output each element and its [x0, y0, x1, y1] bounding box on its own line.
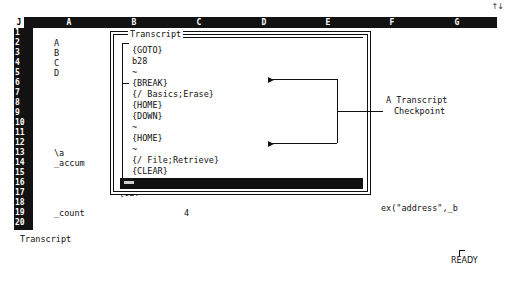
- transcript-window-inner: Transcript {GOTO}b28~{BREAK}{/ Basics;Er…: [113, 34, 368, 192]
- row-header-19[interactable]: 19: [15, 208, 33, 218]
- transcript-line[interactable]: ~: [132, 67, 137, 78]
- transcript-line[interactable]: ~: [132, 122, 137, 133]
- cell-A13[interactable]: \a: [54, 148, 64, 158]
- row-header-8[interactable]: 8: [15, 98, 33, 108]
- row-header-bar[interactable]: 1234567891011121314151617181920: [14, 28, 33, 230]
- transcript-line[interactable]: {HOME}: [132, 100, 163, 111]
- cell-A2[interactable]: A: [54, 38, 59, 48]
- transcript-line[interactable]: {/ Basics;Erase}: [132, 89, 214, 100]
- transcript-window[interactable]: Transcript {GOTO}b28~{BREAK}{/ Basics;Er…: [110, 31, 371, 195]
- transcript-line[interactable]: {DOWN}: [132, 111, 163, 122]
- scroll-lock-icon: ↑↓: [492, 2, 503, 11]
- annotation-line-callout: [337, 111, 383, 112]
- status-left-label: Transcript: [20, 234, 71, 244]
- row-header-3[interactable]: 3: [15, 48, 33, 58]
- row-header-20[interactable]: 20: [15, 218, 33, 228]
- annotation-line-upper-horizontal: [272, 79, 337, 80]
- row-header-11[interactable]: 11: [15, 128, 33, 138]
- transcript-line[interactable]: {GOTO}: [132, 45, 163, 56]
- transcript-line[interactable]: {HOME}: [132, 133, 163, 144]
- row-header-10[interactable]: 10: [15, 118, 33, 128]
- column-header-d[interactable]: D: [256, 17, 272, 28]
- row-header-7[interactable]: 7: [15, 88, 33, 98]
- column-header-bar[interactable]: J ABCDEFG: [14, 17, 497, 28]
- row-header-12[interactable]: 12: [15, 138, 33, 148]
- row-header-2[interactable]: 2: [15, 38, 33, 48]
- row-header-17[interactable]: 17: [15, 188, 33, 198]
- row-header-18[interactable]: 18: [15, 198, 33, 208]
- sheet-corner-label[interactable]: J: [14, 17, 24, 28]
- annotation-arrowhead-lower: [268, 141, 274, 147]
- transcript-title-rule: [176, 34, 363, 38]
- cell-C19[interactable]: 4: [184, 208, 189, 218]
- column-header-e[interactable]: E: [320, 17, 336, 28]
- transcript-cursor-line[interactable]: [120, 178, 363, 189]
- row-header-4[interactable]: 4: [15, 58, 33, 68]
- transcript-bracket-vline-2: [122, 83, 123, 188]
- annotation-label-line1: A Transcript: [386, 95, 447, 106]
- column-header-a[interactable]: A: [61, 17, 77, 28]
- transcript-bracket-vline-1: [122, 43, 123, 83]
- row-header-1[interactable]: 1: [15, 28, 33, 38]
- cell-A14[interactable]: _accum: [54, 158, 85, 168]
- formula-fragment: ex("address",_b: [381, 203, 458, 213]
- transcript-line[interactable]: {BREAK}: [132, 78, 168, 89]
- row-header-15[interactable]: 15: [15, 168, 33, 178]
- column-header-g[interactable]: G: [449, 17, 465, 28]
- cell-A19[interactable]: _count: [54, 208, 85, 218]
- text-cursor-icon: [124, 181, 134, 184]
- cell-A4[interactable]: C: [54, 58, 59, 68]
- transcript-line[interactable]: {/ File;Retrieve}: [132, 155, 219, 166]
- cell-A3[interactable]: B: [54, 48, 59, 58]
- transcript-bracket-mid: [122, 83, 129, 84]
- row-header-16[interactable]: 16: [15, 178, 33, 188]
- transcript-line[interactable]: b28: [132, 56, 147, 67]
- annotation-line-lower-horizontal: [272, 143, 337, 144]
- row-header-13[interactable]: 13: [15, 148, 33, 158]
- annotation-arrowhead-upper: [268, 77, 274, 83]
- transcript-bracket-top: [122, 43, 129, 44]
- cell-A5[interactable]: D: [54, 68, 59, 78]
- screen-root: ↑↓ J ABCDEFG 123456789101112131415161718…: [0, 0, 511, 282]
- row-header-9[interactable]: 9: [15, 108, 33, 118]
- row-header-14[interactable]: 14: [15, 158, 33, 168]
- mode-indicator: READY: [451, 256, 478, 265]
- transcript-line[interactable]: {CLEAR}: [132, 166, 168, 177]
- row-header-6[interactable]: 6: [15, 78, 33, 88]
- transcript-line[interactable]: ~: [132, 144, 137, 155]
- column-header-b[interactable]: B: [126, 17, 142, 28]
- column-header-c[interactable]: C: [191, 17, 207, 28]
- transcript-title: Transcript: [128, 30, 183, 39]
- annotation-label-line2: Checkpoint: [394, 106, 445, 117]
- row-header-5[interactable]: 5: [15, 68, 33, 78]
- column-header-f[interactable]: F: [384, 17, 400, 28]
